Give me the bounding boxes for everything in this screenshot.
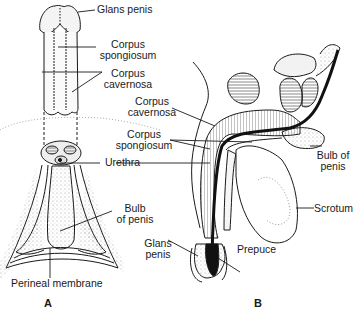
label-b-bulb-of-penis: Bulb of penis: [313, 150, 353, 172]
label-a-corpus-cavernosa: Corpus cavernosa: [98, 68, 158, 90]
label-a-urethra: Urethra: [105, 157, 140, 168]
label-a-glans-penis: Glans penis: [97, 4, 152, 15]
panel-letter-a: A: [44, 297, 52, 309]
label-b-prepuce: Prepuce: [237, 244, 276, 255]
label-a-corpus-spongiosum: Corpus spongiosum: [96, 39, 160, 61]
label-a-perineal-membrane: Perineal membrane: [11, 278, 103, 289]
label-a-bulb-of-penis: Bulb of penis: [112, 203, 158, 225]
label-b-corpus-spongiosum: Corpus spongiosum: [112, 129, 176, 151]
label-b-glans-penis: Glans penis: [140, 238, 176, 260]
label-b-corpus-cavernosa: Corpus cavernosa: [124, 96, 180, 118]
panel-letter-b: B: [254, 297, 262, 309]
label-b-scrotum: Scrotum: [314, 203, 353, 214]
anatomy-illustration: [0, 0, 353, 312]
